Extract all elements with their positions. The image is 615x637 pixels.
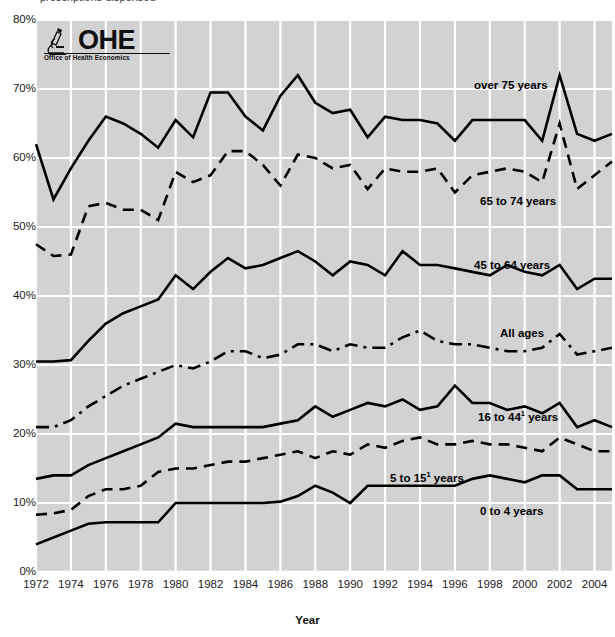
x-axis-tick-label: 2004: [575, 578, 615, 590]
y-axis: 0%10%20%30%40%50%60%70%80%: [0, 0, 36, 637]
series-annotation-label: 5 to 151 years: [390, 470, 464, 484]
ohe-logo-text: OHE: [78, 25, 135, 56]
series-annotation-label: over 75 years: [474, 79, 548, 91]
y-axis-tick-label: 10%: [2, 497, 36, 508]
series-annotation-label: 0 to 4 years: [480, 505, 543, 517]
y-axis-tick-label: 70%: [2, 83, 36, 94]
footnote-marker: 1: [426, 470, 430, 479]
ohe-logo: OHE Office of Health Economics: [44, 27, 170, 63]
ohe-logo-subtitle: Office of Health Economics: [44, 54, 130, 61]
footnote-marker: 1: [521, 409, 525, 418]
series-annotation-label: 65 to 74 years: [480, 195, 556, 207]
plot-area: [0, 0, 615, 637]
y-axis-tick-label: 50%: [2, 221, 36, 232]
chart-root: prescriptions dispensed OHE Office of He…: [0, 0, 615, 637]
x-axis: 1972197419761978198019821984198619881990…: [0, 578, 615, 598]
y-axis-tick-label: 40%: [2, 290, 36, 301]
x-axis-title: Year: [0, 614, 615, 626]
y-axis-tick-label: 0%: [2, 566, 36, 577]
y-axis-tick-label: 30%: [2, 359, 36, 370]
y-axis-tick-label: 20%: [2, 428, 36, 439]
y-axis-tick-label: 80%: [2, 14, 36, 25]
series-annotation-label: All ages: [500, 327, 544, 339]
y-axis-tick-label: 60%: [2, 152, 36, 163]
series-annotation-label: 16 to 441 years: [478, 409, 558, 423]
series-annotation-label: 45 to 64 years: [474, 259, 550, 271]
